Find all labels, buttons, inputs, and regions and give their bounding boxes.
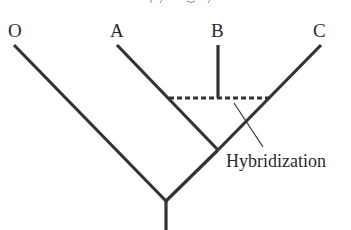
taxon-label-a: A bbox=[110, 20, 124, 41]
branch-root-to-ac bbox=[166, 150, 218, 201]
taxon-label-c: C bbox=[313, 20, 326, 41]
taxon-label-o: O bbox=[8, 20, 22, 41]
phylogeny-diagram: O A B C Hybridization bbox=[0, 0, 351, 230]
branch-o bbox=[14, 45, 166, 201]
cropped-caption-fragments bbox=[151, 0, 210, 3]
hybridization-label: Hybridization bbox=[226, 151, 326, 171]
taxon-label-b: B bbox=[211, 20, 224, 41]
